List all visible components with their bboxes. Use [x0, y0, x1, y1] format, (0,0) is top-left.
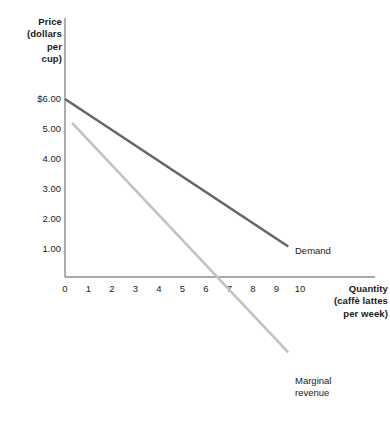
demand-curve: [65, 99, 288, 247]
demand-series-label: Demand: [295, 245, 331, 257]
marginal-revenue-series-label: Marginal revenue: [295, 375, 331, 400]
chart-plot-area: [0, 0, 390, 424]
economics-demand-chart: Price (dollars per cup) Quantity (caffè …: [0, 0, 390, 424]
marginal-revenue-curve: [72, 123, 288, 352]
